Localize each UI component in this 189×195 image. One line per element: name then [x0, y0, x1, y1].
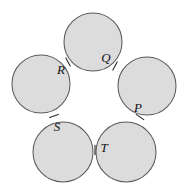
point-label-r: R — [56, 62, 65, 77]
figure-canvas: PQRST — [0, 0, 189, 195]
point-label-s: S — [54, 119, 61, 134]
point-label-t: T — [100, 140, 108, 155]
right-circle — [118, 57, 176, 115]
point-label-p: P — [133, 100, 142, 115]
top-circle — [64, 13, 122, 71]
geometry-figure: PQRST — [0, 0, 189, 195]
point-label-q: Q — [101, 50, 111, 65]
bottom-left-circle — [33, 122, 93, 182]
